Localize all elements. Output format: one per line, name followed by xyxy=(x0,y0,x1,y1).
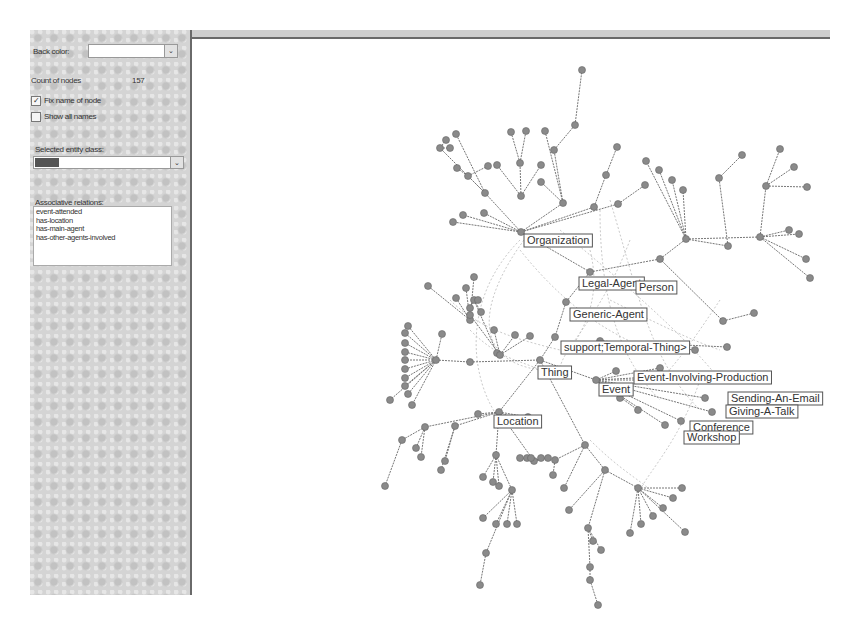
graph-node[interactable] xyxy=(642,182,649,189)
graph-node[interactable] xyxy=(538,455,545,462)
graph-node[interactable] xyxy=(402,357,409,364)
graph-node[interactable] xyxy=(587,577,594,584)
graph-node[interactable] xyxy=(402,330,409,337)
graph-node[interactable] xyxy=(493,521,500,528)
graph-node[interactable] xyxy=(587,564,594,571)
graph-node[interactable] xyxy=(467,305,474,312)
graph-node[interactable] xyxy=(402,375,409,382)
node-label[interactable]: support;Temporal-Thing> xyxy=(561,341,690,354)
graph-node[interactable] xyxy=(442,458,449,465)
node-label[interactable]: Thing xyxy=(538,366,572,379)
graph-node[interactable] xyxy=(627,530,634,537)
graph-node[interactable] xyxy=(439,331,446,338)
graph-node[interactable] xyxy=(724,344,731,351)
graph-node[interactable] xyxy=(467,312,474,319)
graph-node[interactable] xyxy=(422,424,429,431)
node-label[interactable]: Location xyxy=(494,415,542,428)
graph-node[interactable] xyxy=(791,164,798,171)
graph-node[interactable] xyxy=(453,295,460,302)
graph-node[interactable] xyxy=(656,167,663,174)
graph-node[interactable] xyxy=(418,454,425,461)
graph-node[interactable] xyxy=(538,162,545,169)
graph-node[interactable] xyxy=(803,256,810,263)
graph-node[interactable] xyxy=(595,602,602,609)
graph-node[interactable] xyxy=(467,359,474,366)
graph-node[interactable] xyxy=(490,479,497,486)
graph-node[interactable] xyxy=(405,391,412,398)
graph-node[interactable] xyxy=(496,483,503,490)
graph-node[interactable] xyxy=(387,397,394,404)
graph-canvas[interactable]: OrganizationLegal-AgentPersonGeneric-Age… xyxy=(0,0,866,627)
node-label[interactable]: Organization xyxy=(524,234,592,247)
graph-node[interactable] xyxy=(670,495,677,502)
graph-node[interactable] xyxy=(602,467,609,474)
graph-node[interactable] xyxy=(447,145,454,152)
graph-node[interactable] xyxy=(517,160,524,167)
graph-node[interactable] xyxy=(643,158,650,165)
graph-node[interactable] xyxy=(509,487,516,494)
graph-node[interactable] xyxy=(537,357,544,364)
graph-node[interactable] xyxy=(680,187,687,194)
graph-node[interactable] xyxy=(538,179,545,186)
graph-node[interactable] xyxy=(409,402,416,409)
graph-node[interactable] xyxy=(657,256,664,263)
graph-node[interactable] xyxy=(585,525,592,532)
graph-node[interactable] xyxy=(593,377,600,384)
graph-node[interactable] xyxy=(786,227,793,234)
graph-node[interactable] xyxy=(660,505,667,512)
graph-node[interactable] xyxy=(463,285,470,292)
graph-node[interactable] xyxy=(561,485,568,492)
graph-node[interactable] xyxy=(579,67,586,74)
graph-node[interactable] xyxy=(563,299,570,306)
graph-node[interactable] xyxy=(614,144,621,151)
graph-node[interactable] xyxy=(763,183,770,190)
graph-node[interactable] xyxy=(796,231,803,238)
graph-node[interactable] xyxy=(720,318,727,325)
graph-node[interactable] xyxy=(471,274,478,281)
graph-node[interactable] xyxy=(517,455,524,462)
graph-node[interactable] xyxy=(662,422,669,429)
graph-node[interactable] xyxy=(550,472,557,479)
graph-node[interactable] xyxy=(552,334,559,341)
graph-node[interactable] xyxy=(545,455,552,462)
graph-node[interactable] xyxy=(453,131,460,138)
graph-node[interactable] xyxy=(603,172,610,179)
graph-node[interactable] xyxy=(504,521,511,528)
node-label[interactable]: Workshop xyxy=(684,431,739,444)
graph-node[interactable] xyxy=(433,357,440,364)
graph-node[interactable] xyxy=(635,407,642,414)
graph-node[interactable] xyxy=(807,275,814,282)
graph-node[interactable] xyxy=(552,457,559,464)
graph-node[interactable] xyxy=(482,190,489,197)
graph-node[interactable] xyxy=(757,234,764,241)
graph-node[interactable] xyxy=(494,162,501,169)
graph-node[interactable] xyxy=(405,323,412,330)
graph-node[interactable] xyxy=(402,349,409,356)
graph-node[interactable] xyxy=(450,219,457,226)
graph-node[interactable] xyxy=(518,229,525,236)
graph-node[interactable] xyxy=(475,297,482,304)
graph-node[interactable] xyxy=(437,145,444,152)
graph-node[interactable] xyxy=(725,243,732,250)
graph-node[interactable] xyxy=(425,283,432,290)
graph-node[interactable] xyxy=(591,204,598,211)
graph-node[interactable] xyxy=(566,507,573,514)
node-label[interactable]: Sending-An-Email xyxy=(728,392,823,405)
graph-node[interactable] xyxy=(497,352,504,359)
graph-node[interactable] xyxy=(560,200,567,207)
graph-node[interactable] xyxy=(493,452,500,459)
graph-node[interactable] xyxy=(518,193,525,200)
graph-node[interactable] xyxy=(478,309,485,316)
graph-node[interactable] xyxy=(669,177,676,184)
node-label[interactable]: Legal-Agent xyxy=(579,277,644,290)
graph-node[interactable] xyxy=(491,327,498,334)
graph-node[interactable] xyxy=(454,165,461,172)
node-label[interactable]: Event-Involving-Production xyxy=(634,371,771,384)
graph-node[interactable] xyxy=(508,129,515,136)
graph-node[interactable] xyxy=(709,409,716,416)
graph-node[interactable] xyxy=(399,437,406,444)
graph-node[interactable] xyxy=(514,521,521,528)
graph-node[interactable] xyxy=(582,442,589,449)
graph-node[interactable] xyxy=(590,538,597,545)
graph-node[interactable] xyxy=(475,411,482,418)
